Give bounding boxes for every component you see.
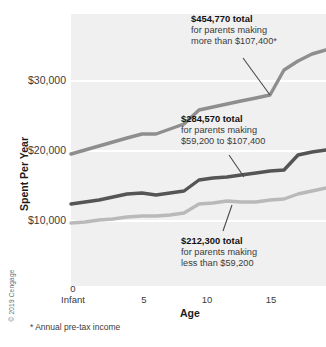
y-axis-tick-20000: $20,000	[4, 144, 66, 156]
x-axis-tick-10: 10	[197, 294, 217, 305]
annotation-high-income-line2: more than $107,400*	[191, 36, 277, 48]
x-axis-label: Age	[180, 307, 200, 319]
annotation-middle-income-line2: $59,200 to $107,400	[181, 136, 265, 148]
x-axis-origin-label-infant: Infant	[52, 294, 94, 305]
annotation-middle-income-total: $284,570 total	[181, 113, 265, 125]
annotation-low-income-line1: for parents making	[181, 247, 257, 259]
footnote-pre-tax-income: * Annual pre-tax income	[30, 322, 120, 332]
annotation-low-income-line2: less than $59,200	[181, 258, 257, 270]
annotation-middle-income: $284,570 total for parents making $59,20…	[181, 113, 265, 148]
y-axis-tick-10000: $10,000	[4, 214, 66, 226]
y-axis-tick-30000: $30,000	[4, 74, 66, 86]
annotation-low-income-total: $212,300 total	[181, 235, 257, 247]
annotation-high-income: $454,770 total for parents making more t…	[191, 13, 277, 48]
annotation-low-income: $212,300 total for parents making less t…	[181, 235, 257, 270]
x-axis-tick-15: 15	[261, 294, 281, 305]
x-axis-tick-5: 5	[134, 294, 154, 305]
annotation-high-income-line1: for parents making	[191, 25, 277, 37]
x-axis-origin-number: 0	[62, 283, 84, 294]
spending-per-child-line-chart: Spent Per Year $30,000 $20,000 $10,000 0…	[0, 0, 326, 347]
copyright-notice: © 2019 Cengage	[8, 267, 15, 325]
annotation-middle-income-line1: for parents making	[181, 125, 265, 137]
annotation-high-income-total: $454,770 total	[191, 13, 277, 25]
